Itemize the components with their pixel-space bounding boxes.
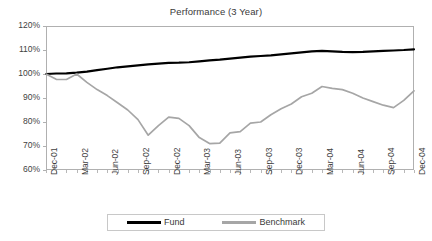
x-axis-label: Mar-04 bbox=[326, 148, 335, 175]
x-axis-label: Dec-04 bbox=[418, 148, 427, 175]
x-axis-label: Dec-03 bbox=[295, 148, 304, 175]
x-axis-tick bbox=[77, 170, 78, 173]
y-axis-label: 110% bbox=[0, 45, 40, 54]
x-axis-label: Jun-02 bbox=[111, 149, 120, 175]
y-axis-label: 60% bbox=[0, 165, 40, 174]
x-axis-label: Sep-03 bbox=[265, 148, 274, 175]
x-axis-label: Jun-04 bbox=[357, 149, 366, 175]
x-axis-tick bbox=[138, 170, 139, 173]
x-axis-tick bbox=[261, 170, 262, 173]
x-axis-label: Sep-04 bbox=[387, 148, 396, 175]
legend-label-benchmark: Benchmark bbox=[259, 218, 305, 227]
series-line-benchmark bbox=[46, 74, 414, 144]
y-axis-label: 90% bbox=[0, 93, 40, 102]
x-axis-label: Sep-02 bbox=[142, 148, 151, 175]
x-axis-label: Jun-03 bbox=[234, 149, 243, 175]
x-axis-label: Dec-01 bbox=[50, 148, 59, 175]
x-axis-label: Mar-03 bbox=[203, 148, 212, 175]
chart-legend: Fund Benchmark bbox=[107, 214, 325, 231]
legend-swatch-benchmark-icon bbox=[222, 221, 256, 223]
y-axis-label: 100% bbox=[0, 69, 40, 78]
y-axis-label: 120% bbox=[0, 21, 40, 30]
x-axis-tick bbox=[404, 170, 405, 173]
x-axis-tick bbox=[383, 170, 384, 173]
y-axis-label: 80% bbox=[0, 117, 40, 126]
x-axis-tick bbox=[107, 170, 108, 173]
x-axis-tick bbox=[46, 170, 47, 173]
x-axis-label: Dec-02 bbox=[173, 148, 182, 175]
x-axis-tick bbox=[199, 170, 200, 173]
legend-swatch-fund-icon bbox=[127, 221, 161, 224]
series-line-fund bbox=[46, 49, 414, 74]
x-axis-tick bbox=[66, 170, 67, 173]
x-axis-tick bbox=[128, 170, 129, 173]
x-axis-tick bbox=[97, 170, 98, 173]
x-axis-tick bbox=[312, 170, 313, 173]
y-axis-label: 70% bbox=[0, 141, 40, 150]
x-axis-tick bbox=[281, 170, 282, 173]
legend-item-benchmark: Benchmark bbox=[222, 218, 305, 227]
chart-title: Performance (3 Year) bbox=[0, 6, 432, 17]
x-axis-tick bbox=[158, 170, 159, 173]
x-axis-tick bbox=[169, 170, 170, 173]
x-axis-tick bbox=[189, 170, 190, 173]
performance-chart: Performance (3 Year) 120%110%100%90%80%7… bbox=[0, 0, 432, 241]
x-axis-tick bbox=[220, 170, 221, 173]
x-axis-tick bbox=[342, 170, 343, 173]
x-axis-label: Mar-02 bbox=[81, 148, 90, 175]
x-axis-tick bbox=[373, 170, 374, 173]
x-axis-tick bbox=[322, 170, 323, 173]
legend-item-fund: Fund bbox=[127, 218, 185, 227]
x-axis-tick bbox=[230, 170, 231, 173]
x-axis-tick bbox=[250, 170, 251, 173]
legend-label-fund: Fund bbox=[164, 218, 185, 227]
x-axis-tick bbox=[291, 170, 292, 173]
x-axis-tick bbox=[353, 170, 354, 173]
x-axis-tick bbox=[414, 170, 415, 173]
